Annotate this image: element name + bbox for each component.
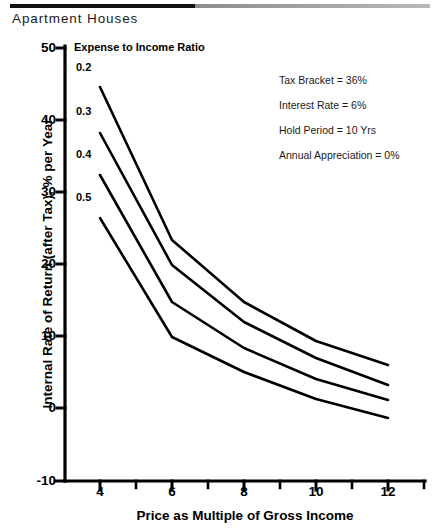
annotation-tax-bracket: Tax Bracket = 36% [279,74,367,86]
curve-label-0-4: 0.4 [76,148,91,160]
x-tick-label-10: 10 [296,484,336,499]
chart-plot-area [0,0,439,532]
y-tick-label-neg10: -10 [20,473,56,488]
legend-title: Expense to Income Ratio [74,41,205,53]
curve-label-0-2: 0.2 [76,61,91,73]
annotation-annual-appreciation: Annual Appreciation = 0% [279,149,400,161]
x-axis-title: Price as Multiple of Gross Income [60,508,430,523]
curve-label-0-3: 0.3 [76,105,91,117]
annotation-interest-rate: Interest Rate = 6% [279,99,366,111]
x-tick-label-6: 6 [152,484,192,499]
y-axis-title: Internal Rate of Return (after Tax), % p… [40,54,55,474]
curve-label-0-5: 0.5 [76,191,91,203]
x-tick-label-12: 12 [368,484,408,499]
x-tick-label-8: 8 [224,484,264,499]
chart-page: Apartment Houses [0,0,439,532]
x-tick-label-4: 4 [80,484,120,499]
annotation-hold-period: Hold Period = 10 Yrs [279,124,376,136]
